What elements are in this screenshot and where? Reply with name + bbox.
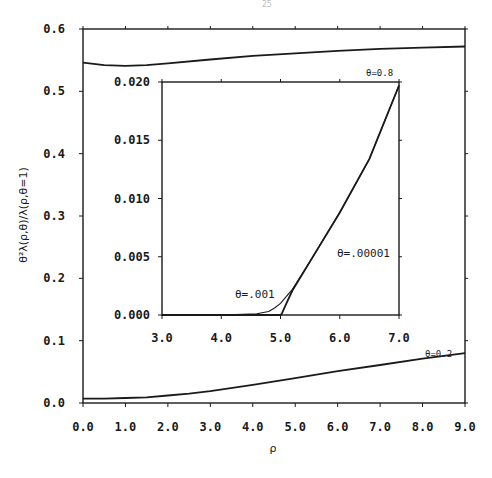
main-y-tick-label: 0.0 — [43, 396, 65, 410]
inset-x-tick-label: 4.0 — [210, 331, 232, 345]
main-x-tick-label: 6.0 — [327, 420, 349, 434]
main-series-line — [83, 353, 465, 399]
label-theta-001: θ=.001 — [235, 288, 275, 301]
main-x-tick-label: 5.0 — [284, 420, 306, 434]
inset-background — [162, 82, 399, 315]
inset-x-tick-label: 7.0 — [388, 331, 410, 345]
main-y-tick-label: 0.5 — [43, 84, 65, 98]
main-y-tick-label: 0.3 — [43, 209, 65, 223]
main-x-tick-label: 9.0 — [454, 420, 476, 434]
main-x-tick-label: 4.0 — [242, 420, 264, 434]
main-x-tick-label: 1.0 — [115, 420, 137, 434]
main-y-tick-label: 0.2 — [43, 271, 65, 285]
main-y-tick-label: 0.6 — [43, 22, 65, 36]
inset-y-tick-label: 0.015 — [114, 133, 150, 147]
label-theta-0.8: θ=0.8 — [366, 68, 393, 78]
label-theta-0.2: θ=0.2 — [425, 349, 452, 359]
label-theta-00001: θ=.00001 — [337, 247, 390, 260]
inset-x-tick-label: 5.0 — [270, 331, 292, 345]
inset-y-tick-label: 0.020 — [114, 75, 150, 89]
main-y-tick-label: 0.4 — [43, 147, 65, 161]
inset-y-tick-label: 0.000 — [114, 308, 150, 322]
main-x-tick-label: 8.0 — [412, 420, 434, 434]
main-y-tick-label: 0.1 — [43, 334, 65, 348]
inset-y-tick-label: 0.005 — [114, 250, 150, 264]
y-axis-title: θ²λ(ρ,θ)/λ(ρ,θ=1) — [17, 167, 30, 263]
main-x-tick-label: 0.0 — [72, 420, 94, 434]
main-x-tick-label: 2.0 — [157, 420, 179, 434]
inset-x-tick-label: 6.0 — [329, 331, 351, 345]
main-series-line — [83, 47, 465, 66]
main-x-tick-label: 7.0 — [369, 420, 391, 434]
page-number: 25 — [262, 0, 272, 9]
main-x-tick-label: 3.0 — [199, 420, 221, 434]
figure: 25 0.01.02.03.04.05.06.07.08.09.00.00.10… — [0, 0, 492, 478]
x-axis-title: ρ — [270, 442, 277, 455]
inset-x-tick-label: 3.0 — [151, 331, 173, 345]
inset-y-tick-label: 0.010 — [114, 192, 150, 206]
